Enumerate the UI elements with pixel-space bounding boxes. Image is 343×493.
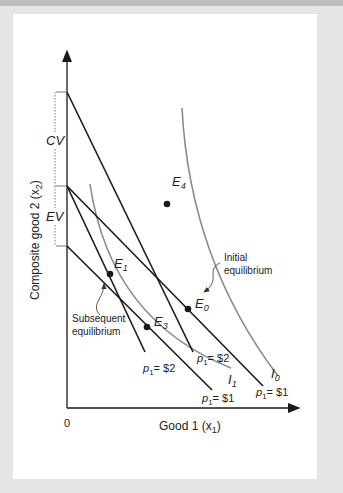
ev-label: EV xyxy=(46,209,65,224)
budget-line-e0-p1 xyxy=(67,186,263,386)
price-label-e1: p1= $2 xyxy=(142,362,175,377)
label-e4: E4 xyxy=(172,174,186,191)
annotation-subsequent-line2: equilibrium xyxy=(72,326,120,337)
y-axis-label: Composite good 2 (x2) xyxy=(28,180,44,300)
label-e3: E3 xyxy=(154,314,168,331)
point-e0 xyxy=(185,306,192,313)
indifference-curve-i0 xyxy=(182,108,278,376)
price-label-e3: p1= $1 xyxy=(201,392,234,407)
label-i1: I1 xyxy=(228,372,237,389)
price-label-e0: p1= $1 xyxy=(255,386,288,401)
annotation-subsequent-line1: Subsequent xyxy=(72,313,126,324)
x-axis-label: Good 1 (x1) xyxy=(159,419,221,435)
cv-label: CV xyxy=(46,133,65,148)
annotation-initial-arrow xyxy=(204,263,220,292)
label-e1: E1 xyxy=(114,256,128,273)
origin-label: 0 xyxy=(64,417,70,429)
point-e4 xyxy=(164,201,171,208)
annotation-initial-line2: equilibrium xyxy=(224,265,272,276)
compensating-equivalent-variation-diagram: CV EV Composite good 2 (x2) E4 E1 E3 E0 … xyxy=(0,0,343,493)
point-e3 xyxy=(144,324,151,331)
label-e0: E0 xyxy=(195,296,209,313)
annotation-initial-line1: Initial xyxy=(224,252,247,263)
label-i0: I0 xyxy=(271,366,280,383)
annotation-subsequent-arrow xyxy=(96,284,104,315)
point-e1 xyxy=(107,271,114,278)
